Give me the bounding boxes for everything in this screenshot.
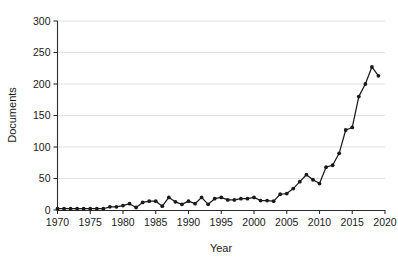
data-point bbox=[305, 173, 309, 177]
x-tick-label: 1980 bbox=[111, 216, 135, 228]
data-point bbox=[75, 207, 79, 211]
data-point bbox=[357, 95, 361, 99]
data-point bbox=[226, 198, 230, 202]
x-tick-label: 2000 bbox=[242, 216, 266, 228]
data-point bbox=[350, 126, 354, 130]
chart-figure: 050100150200250300 197019751980198519901… bbox=[0, 0, 398, 263]
data-point bbox=[239, 197, 243, 201]
series-line-documents bbox=[58, 67, 379, 209]
data-point bbox=[167, 196, 171, 200]
data-point bbox=[56, 207, 60, 211]
data-point bbox=[193, 202, 197, 206]
data-point bbox=[331, 163, 335, 167]
y-tick-label: 300 bbox=[33, 15, 51, 27]
data-point bbox=[115, 205, 119, 209]
y-tick-label: 100 bbox=[33, 141, 51, 153]
x-tick-label: 1970 bbox=[46, 216, 70, 228]
data-point bbox=[291, 187, 295, 191]
data-point bbox=[363, 82, 367, 86]
y-tick-label: 150 bbox=[33, 109, 51, 121]
data-point bbox=[219, 196, 223, 200]
x-tick-label: 2005 bbox=[275, 216, 299, 228]
x-tick-label: 1995 bbox=[210, 216, 234, 228]
data-point bbox=[285, 192, 289, 196]
data-point bbox=[259, 199, 263, 203]
data-point bbox=[370, 65, 374, 69]
data-point bbox=[344, 128, 348, 132]
data-point bbox=[108, 205, 112, 209]
x-tick-label: 1985 bbox=[144, 216, 168, 228]
data-point bbox=[134, 206, 138, 210]
data-point bbox=[180, 202, 184, 206]
data-point bbox=[95, 207, 99, 211]
data-point bbox=[82, 207, 86, 211]
data-point bbox=[69, 207, 73, 211]
x-tick-label: 2020 bbox=[373, 216, 397, 228]
y-tick-label: 50 bbox=[39, 172, 51, 184]
data-point bbox=[377, 74, 381, 78]
data-point bbox=[62, 207, 66, 211]
data-point bbox=[154, 199, 158, 203]
data-point bbox=[272, 199, 276, 203]
data-point bbox=[88, 207, 92, 211]
x-tick-label: 2010 bbox=[308, 216, 332, 228]
data-point bbox=[318, 182, 322, 186]
y-tick-label: 250 bbox=[33, 46, 51, 58]
data-point bbox=[147, 199, 151, 203]
data-point bbox=[174, 200, 178, 204]
x-tick-label: 1990 bbox=[177, 216, 201, 228]
y-tick-label: 0 bbox=[45, 204, 51, 216]
data-point bbox=[187, 199, 191, 203]
y-axis-title: Documents bbox=[6, 87, 18, 143]
data-point bbox=[278, 192, 282, 196]
data-point bbox=[128, 202, 132, 206]
data-point bbox=[141, 201, 145, 205]
data-point bbox=[298, 180, 302, 184]
data-point bbox=[213, 197, 217, 201]
x-tick-label: 2015 bbox=[341, 216, 365, 228]
x-tick-label-group: 1970197519801985199019952000200520102015… bbox=[46, 216, 397, 228]
data-point bbox=[160, 204, 164, 208]
y-tick-group bbox=[54, 21, 58, 210]
data-point bbox=[311, 178, 315, 182]
data-point bbox=[252, 196, 256, 200]
data-point bbox=[265, 199, 269, 203]
data-point bbox=[121, 204, 125, 208]
data-point bbox=[101, 207, 105, 211]
line-chart-canvas: 050100150200250300 197019751980198519901… bbox=[0, 0, 398, 263]
y-tick-label: 200 bbox=[33, 78, 51, 90]
data-point bbox=[206, 202, 210, 206]
gridline-group bbox=[58, 21, 386, 179]
series-marker-group bbox=[56, 65, 381, 211]
data-point bbox=[246, 197, 250, 201]
data-point bbox=[324, 165, 328, 169]
x-axis-title: Year bbox=[210, 242, 233, 254]
y-tick-label-group: 050100150200250300 bbox=[33, 15, 51, 216]
data-point bbox=[200, 196, 204, 200]
data-point bbox=[232, 198, 236, 202]
x-tick-label: 1975 bbox=[79, 216, 103, 228]
data-point bbox=[337, 151, 341, 155]
